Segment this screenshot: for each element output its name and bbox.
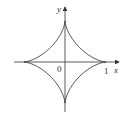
origin-label: 0 xyxy=(57,64,62,74)
y-axis-label: y xyxy=(56,4,61,14)
x-axis-label: x xyxy=(113,65,118,75)
astroid-diagram: y x 0 1 xyxy=(0,0,122,117)
x-tick-label: 1 xyxy=(104,66,109,76)
